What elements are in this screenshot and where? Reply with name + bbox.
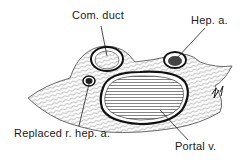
leader-line-hepatic-artery (177, 28, 205, 58)
hepatic-artery-structure (164, 52, 186, 68)
common-duct-structure (91, 47, 123, 71)
label-hepatic-artery: Hep. a. (191, 14, 228, 26)
portal-vein-structure (101, 72, 188, 124)
anatomy-diagram: Com. duct Hep. a. Replaced r. hep. a. Po… (0, 0, 248, 161)
label-replaced-right-hepatic-artery: Replaced r. hep. a. (14, 127, 110, 139)
label-common-duct: Com. duct (72, 9, 124, 21)
label-portal-vein: Portal v. (175, 140, 216, 152)
